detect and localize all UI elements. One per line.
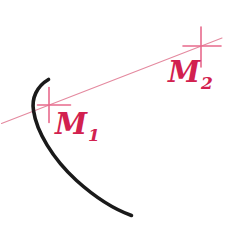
black-arc [33,80,131,216]
point-label-m1-base: M [55,107,87,141]
geometry-figure: M1 M2 [0,0,250,235]
point-label-m1: M1 [55,110,99,139]
point-label-m2-base: M [168,55,200,89]
point-label-m1-subscript: 1 [88,125,100,145]
figure-canvas [0,0,250,235]
point-label-m2-subscript: 2 [201,73,213,93]
point-label-m2: M2 [168,58,212,87]
